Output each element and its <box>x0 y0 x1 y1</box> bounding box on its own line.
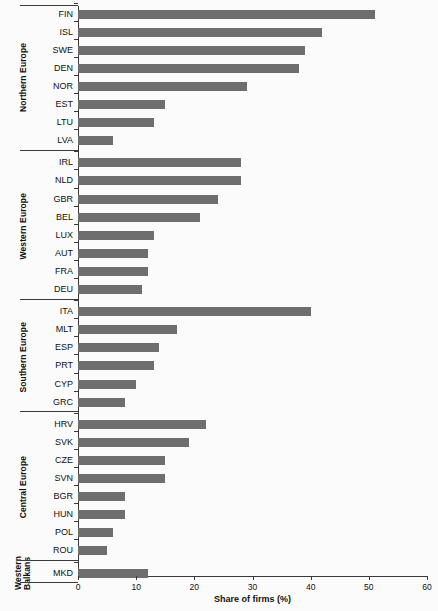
x-axis-tick <box>253 576 254 580</box>
category-tick <box>74 485 78 486</box>
category-label: MLT <box>56 323 73 336</box>
category-label: SVK <box>55 436 73 449</box>
bar-row: FRA <box>78 267 427 276</box>
category-label: SVN <box>54 472 73 485</box>
category-tick <box>74 3 78 4</box>
category-tick <box>74 431 78 432</box>
bar-row: CZE <box>78 456 427 465</box>
group-label-text: Western Europe <box>19 193 28 259</box>
bar <box>78 343 159 352</box>
bar <box>78 231 154 240</box>
category-tick <box>74 188 78 189</box>
category-label: BGR <box>53 490 73 503</box>
category-tick <box>74 300 78 301</box>
category-label: HUN <box>54 508 74 521</box>
category-tick <box>74 242 78 243</box>
x-axis-tick-label: 0 <box>76 582 81 592</box>
x-axis-tick <box>427 576 428 580</box>
bar-row: ESP <box>78 343 427 352</box>
group-label: Central Europe <box>0 415 46 560</box>
bar-row: GRC <box>78 398 427 407</box>
category-label: HRV <box>54 418 73 431</box>
bar <box>78 82 247 91</box>
category-tick <box>74 503 78 504</box>
bar <box>78 569 148 578</box>
category-tick <box>74 151 78 152</box>
group-separator <box>20 150 78 151</box>
bar-row: LTU <box>78 118 427 127</box>
bar <box>78 285 142 294</box>
bar <box>78 361 154 370</box>
category-tick <box>74 413 78 414</box>
group-separator <box>20 411 78 412</box>
category-label: PRT <box>55 359 73 372</box>
category-tick <box>74 206 78 207</box>
category-label: ESP <box>55 341 73 354</box>
bar-row: EST <box>78 100 427 109</box>
bar <box>78 398 125 407</box>
bar <box>78 176 241 185</box>
bar-row: SVN <box>78 474 427 483</box>
bar <box>78 28 322 37</box>
group-separator <box>20 299 78 300</box>
bar <box>78 249 148 258</box>
bar-row: IRL <box>78 158 427 167</box>
bar <box>78 380 136 389</box>
bar-chart: Northern EuropeWestern EuropeSouthern Eu… <box>0 0 438 611</box>
bar-row: DEU <box>78 285 427 294</box>
category-label: POL <box>55 526 73 539</box>
bar <box>78 325 177 334</box>
x-axis-tick <box>311 576 312 580</box>
category-tick <box>74 391 78 392</box>
bar <box>78 46 305 55</box>
bar <box>78 136 113 145</box>
category-label: CYP <box>54 378 73 391</box>
bar <box>78 213 200 222</box>
category-tick <box>74 336 78 337</box>
category-label: GBR <box>53 193 73 206</box>
category-tick <box>74 318 78 319</box>
x-axis-tick-label: 20 <box>190 582 199 592</box>
bar <box>78 546 107 555</box>
category-label: LVA <box>57 134 73 147</box>
bar-row: NOR <box>78 82 427 91</box>
group-label: Southern Europe <box>0 303 46 412</box>
category-label: ISL <box>59 26 73 39</box>
bar <box>78 10 375 19</box>
category-tick <box>74 21 78 22</box>
category-label: SWE <box>52 44 73 57</box>
x-axis-title: Share of firms (%) <box>78 594 427 604</box>
bar <box>78 118 154 127</box>
bar-row: DEN <box>78 64 427 73</box>
category-label: DEN <box>54 62 73 75</box>
group-separator <box>20 5 78 6</box>
category-label: ITA <box>60 305 73 318</box>
plot-area: FINISLSWEDENNORESTLTULVAIRLNLDGBRBELLUXA… <box>78 0 427 576</box>
group-label-text: Northern Europe <box>19 43 28 112</box>
bar <box>78 456 165 465</box>
group-label-text: Central Europe <box>19 456 28 518</box>
category-label: IRL <box>59 156 73 169</box>
category-label: NLD <box>55 174 73 187</box>
category-tick <box>74 75 78 76</box>
category-label: MKD <box>53 567 73 580</box>
bar-row: LUX <box>78 231 427 240</box>
bar-row: ROU <box>78 546 427 555</box>
x-axis-tick-label: 30 <box>248 582 257 592</box>
group-label: Western Europe <box>0 154 46 299</box>
category-label: ROU <box>53 544 73 557</box>
bar-row: FIN <box>78 10 427 19</box>
bar <box>78 528 113 537</box>
bar <box>78 420 206 429</box>
category-tick <box>74 129 78 130</box>
x-axis-tick-label: 60 <box>422 582 431 592</box>
category-tick <box>74 57 78 58</box>
bar <box>78 195 218 204</box>
bar <box>78 267 148 276</box>
group-label-text: Western Balkans <box>14 556 32 590</box>
category-label: FRA <box>55 265 73 278</box>
bar-row: NLD <box>78 176 427 185</box>
category-tick <box>74 39 78 40</box>
x-axis-tick-label: 10 <box>131 582 140 592</box>
bar-row: SWE <box>78 46 427 55</box>
